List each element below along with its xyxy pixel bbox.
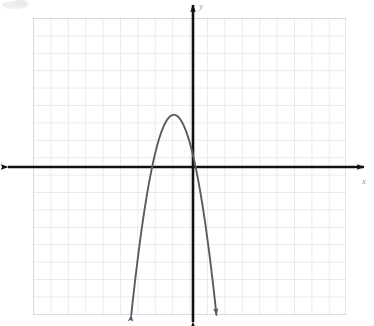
x-axis-label: x: [361, 176, 366, 186]
graph-figure: y x: [0, 0, 374, 326]
coordinate-plane-svg: y x: [0, 0, 374, 326]
scan-smudge: [2, 0, 28, 9]
y-axis-label: y: [198, 1, 203, 11]
